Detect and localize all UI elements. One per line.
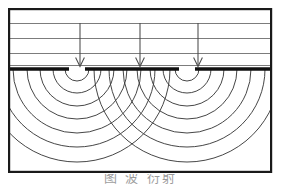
- diffraction-diagram: [0, 0, 281, 184]
- wave-diffraction-figure: 图 波 衍射: [0, 0, 281, 184]
- figure-caption-text: 图 波 衍射: [0, 174, 281, 184]
- figure-caption: 图 波 衍射: [0, 174, 281, 184]
